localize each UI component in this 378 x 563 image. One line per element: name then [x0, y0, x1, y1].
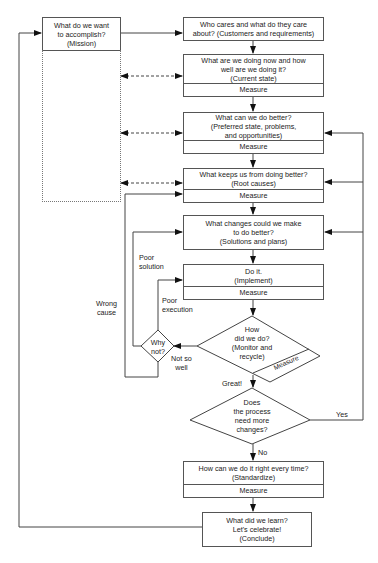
step-text: Do it.	[234, 267, 272, 276]
mission-text-1: What do we want	[54, 21, 109, 30]
step-text: What did we learn?	[226, 516, 288, 525]
decision-text: How	[222, 325, 282, 334]
step-text: What keeps us from doing better?	[200, 170, 308, 179]
step-text: (Root causes)	[200, 179, 308, 188]
edge-label-text: Not so	[171, 354, 192, 363]
step-text: How can we do it right every time?	[199, 464, 309, 473]
step-text: What are we doing now and how	[201, 56, 305, 65]
edge-label-text: Poor	[139, 253, 164, 262]
step-customers: Who cares and what do they care about? (…	[183, 17, 324, 41]
measure-label: Measure	[184, 83, 323, 96]
decision-text: Why	[146, 338, 170, 347]
step-text: Who cares and what do they care	[193, 20, 314, 29]
step-text: What can we do better?	[211, 113, 297, 122]
mission-box: What do we want to accomplish? (Mission)	[42, 17, 121, 51]
measure-label: Measure	[184, 189, 323, 202]
decision-text: need more	[222, 416, 282, 425]
mission-scope-dotted	[42, 50, 121, 202]
step-standardize: How can we do it right every time? (Stan…	[183, 461, 324, 498]
step-root-causes: What keeps us from doing better? (Root c…	[183, 168, 324, 203]
measure-label: Measure	[184, 140, 323, 153]
step-implement: Do it. (Implement) Measure	[183, 264, 324, 300]
monitor-decision-text: How did we do? (Monitor and recycle)	[222, 325, 282, 361]
more-changes-text: Does the process need more changes?	[222, 398, 282, 434]
step-text: to do better?	[206, 228, 302, 237]
step-text: (Implement)	[234, 276, 272, 285]
step-text: (Preferred state, problems,	[211, 122, 297, 131]
step-text: (Conclude)	[226, 534, 288, 543]
decision-text: Does	[222, 398, 282, 407]
decision-text: did we do?	[222, 334, 282, 343]
decision-text: not?	[146, 347, 170, 356]
mission-text-3: (Mission)	[54, 39, 109, 48]
step-text: (Standardize)	[199, 473, 309, 482]
label-poor-solution: Poor solution	[139, 253, 164, 271]
decision-text: (Monitor and	[222, 343, 282, 352]
edge-label-text: well	[171, 363, 192, 372]
step-text: What changes could we make	[206, 219, 302, 228]
step-text: about? (Customers and requirements)	[193, 29, 314, 38]
step-text: and opportunities)	[211, 131, 297, 140]
step-solutions: What changes could we make to do better?…	[183, 215, 324, 250]
measure-label: Measure	[184, 484, 323, 497]
step-text: well are we doing it?	[201, 65, 305, 74]
label-no: No	[258, 448, 267, 457]
edge-label-text: Wrong	[96, 299, 117, 308]
label-yes: Yes	[336, 410, 348, 419]
step-text: (Solutions and plans)	[206, 237, 302, 246]
mission-text-2: to accomplish?	[54, 30, 109, 39]
step-preferred-state: What can we do better? (Preferred state,…	[183, 112, 324, 154]
step-text: Let's celebrate!	[226, 525, 288, 534]
label-poor-execution: Poor execution	[162, 296, 193, 314]
label-not-so-well: Not so well	[171, 354, 192, 372]
step-current-state: What are we doing now and how well are w…	[183, 54, 324, 97]
decision-text: the process	[222, 407, 282, 416]
edge-label-text: execution	[162, 305, 193, 314]
decision-text: changes?	[222, 425, 282, 434]
edge-label-text: cause	[96, 308, 117, 317]
step-text: (Current state)	[201, 74, 305, 83]
edge-label-text: solution	[139, 262, 164, 271]
decision-text: recycle)	[222, 352, 282, 361]
label-great: Great!	[222, 379, 242, 388]
label-wrong-cause: Wrong cause	[96, 299, 117, 317]
edge-label-text: Poor	[162, 296, 193, 305]
measure-label: Measure	[184, 286, 323, 299]
step-conclude: What did we learn? Let's celebrate! (Con…	[202, 512, 312, 547]
why-not-text: Why not?	[146, 338, 170, 356]
